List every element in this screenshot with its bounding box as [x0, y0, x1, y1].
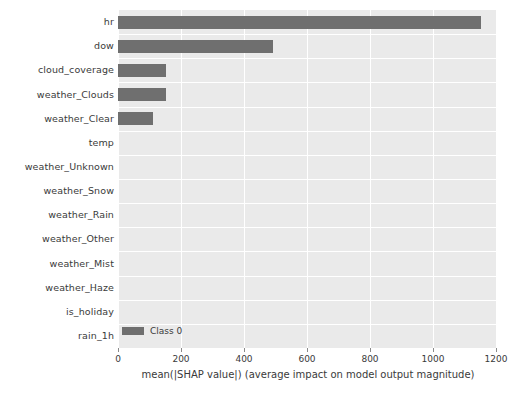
y-tick-label-weather_Clouds: weather_Clouds [0, 90, 114, 100]
gridline-horizontal [118, 276, 496, 277]
gridline-horizontal [118, 58, 496, 59]
gridline-horizontal [118, 82, 496, 83]
gridline-horizontal [118, 34, 496, 35]
x-tick-label-400: 400 [235, 354, 252, 364]
legend: Class 0 [122, 326, 182, 336]
bar-weather_Clouds [118, 88, 166, 101]
x-axis-title-text: mean(|SHAP value|) (average impact on mo… [141, 369, 474, 380]
gridline-horizontal [118, 203, 496, 204]
x-tick-mark [370, 348, 371, 352]
bar-cloud_coverage [118, 64, 166, 77]
x-tick-mark [307, 348, 308, 352]
y-tick-label-rain_1h: rain_1h [0, 331, 114, 341]
x-tick-mark [181, 348, 182, 352]
bar-weather_Clear [118, 112, 153, 125]
gridline-horizontal [118, 227, 496, 228]
y-tick-label-weather_Mist: weather_Mist [0, 259, 114, 269]
y-tick-label-weather_Snow: weather_Snow [0, 186, 114, 196]
x-axis-title: mean(|SHAP value|) (average impact on mo… [0, 369, 524, 380]
x-tick-label-1000: 1000 [422, 354, 445, 364]
gridline-horizontal [118, 251, 496, 252]
y-tick-label-weather_Rain: weather_Rain [0, 210, 114, 220]
gridline-horizontal [118, 155, 496, 156]
y-tick-label-weather_Haze: weather_Haze [0, 283, 114, 293]
gridline-horizontal [118, 107, 496, 108]
x-tick-label-200: 200 [172, 354, 189, 364]
y-axis-tick-labels: hrdowcloud_coverageweather_Cloudsweather… [0, 10, 114, 348]
y-tick-label-weather_Unknown: weather_Unknown [0, 162, 114, 172]
x-tick-label-600: 600 [298, 354, 315, 364]
x-tick-label-1200: 1200 [485, 354, 508, 364]
y-tick-label-is_holiday: is_holiday [0, 307, 114, 317]
y-tick-label-weather_Other: weather_Other [0, 234, 114, 244]
gridline-horizontal [118, 300, 496, 301]
shap-feature-importance-chart: hrdowcloud_coverageweather_Cloudsweather… [0, 0, 524, 400]
x-tick-mark [433, 348, 434, 352]
legend-swatch-class-0 [122, 327, 144, 335]
x-tick-mark [118, 348, 119, 352]
x-tick-label-0: 0 [115, 354, 121, 364]
x-tick-mark [496, 348, 497, 352]
plot-area [118, 10, 496, 348]
x-tick-mark [244, 348, 245, 352]
gridline-horizontal [118, 179, 496, 180]
bar-hr [118, 16, 481, 29]
y-tick-label-hr: hr [0, 17, 114, 27]
gridline-horizontal [118, 324, 496, 325]
legend-label-class-0: Class 0 [150, 326, 182, 336]
y-tick-label-cloud_coverage: cloud_coverage [0, 65, 114, 75]
y-tick-label-temp: temp [0, 138, 114, 148]
y-tick-label-dow: dow [0, 41, 114, 51]
y-tick-label-weather_Clear: weather_Clear [0, 114, 114, 124]
gridline-horizontal [118, 131, 496, 132]
bar-dow [118, 40, 273, 53]
x-tick-label-800: 800 [361, 354, 378, 364]
